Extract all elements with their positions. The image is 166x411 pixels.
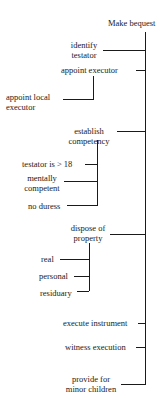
connector-no-duress (67, 205, 97, 206)
property-branch (89, 243, 90, 291)
node-dispose-property: dispose of property (66, 223, 110, 243)
connector-personal (74, 276, 89, 277)
node-appoint-local-executor: appoint local executor (6, 92, 50, 112)
node-testator-over-18: testator is > 18 (22, 159, 72, 169)
connector-appoint-executor (136, 70, 145, 71)
connector-execute (138, 323, 145, 324)
minor-children-text: minor children (62, 384, 120, 394)
connector-over-18 (85, 164, 97, 165)
appoint-local-text: appoint local (6, 92, 50, 102)
identify-text: identify (64, 40, 104, 50)
connector-competency (117, 131, 145, 132)
node-execute-instrument: execute instrument (63, 318, 127, 328)
node-provide-minor-children: provide for minor children (62, 374, 120, 394)
mentally-text: mentally (22, 173, 62, 183)
connector-identify (103, 50, 145, 51)
competency-branch (97, 140, 98, 206)
node-no-duress: no duress (28, 201, 60, 211)
establish-text: establish (64, 126, 114, 136)
connector-real (60, 259, 89, 260)
property-text: property (66, 233, 110, 243)
competent-text: competent (22, 183, 62, 193)
main-trunk-line (145, 32, 146, 384)
node-witness-execution: witness execution (65, 342, 126, 352)
node-mentally-competent: mentally competent (22, 173, 62, 193)
connector-witness (136, 347, 145, 348)
testator-text: testator (64, 50, 104, 60)
root-label: Make bequest (108, 18, 155, 28)
competency-text: competency (64, 136, 114, 146)
executor-text: executor (6, 102, 50, 112)
dispose-text: dispose of (66, 223, 110, 233)
node-residuary: residuary (40, 288, 72, 298)
connector-mentally (64, 181, 97, 182)
node-real: real (41, 254, 54, 264)
node-personal: personal (39, 271, 68, 281)
connector-residuary (77, 291, 89, 292)
appoint-executor-branch (93, 76, 94, 100)
node-establish-competency: establish competency (64, 126, 114, 146)
connector-local-executor (63, 99, 94, 100)
provide-for-text: provide for (62, 374, 120, 384)
node-identify-testator: identify testator (64, 40, 104, 60)
connector-minor-children (121, 384, 146, 385)
node-appoint-executor: appoint executor (61, 65, 118, 75)
connector-property (110, 234, 145, 235)
